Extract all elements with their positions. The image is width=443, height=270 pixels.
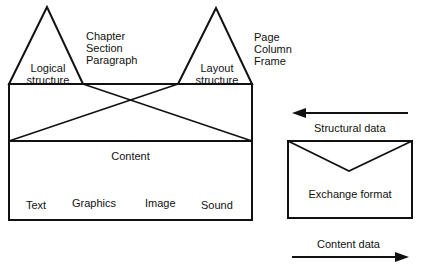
mapping-line-layout bbox=[9, 84, 178, 141]
mapping-box bbox=[9, 84, 252, 141]
envelope-body bbox=[288, 141, 412, 218]
layout-structure-label: Layout structure bbox=[189, 62, 245, 86]
logical-item: Section bbox=[86, 42, 137, 54]
content-type-graphics: Graphics bbox=[72, 197, 116, 209]
content-arrow-head bbox=[395, 252, 409, 262]
logical-items: Chapter Section Paragraph bbox=[86, 30, 137, 66]
content-type-sound: Sound bbox=[201, 199, 233, 211]
layout-item: Column bbox=[254, 43, 292, 55]
logical-item: Paragraph bbox=[86, 54, 137, 66]
content-type-text: Text bbox=[26, 199, 46, 211]
logical-item: Chapter bbox=[86, 30, 137, 42]
logical-structure-label: Logical structure bbox=[20, 62, 76, 86]
content-title: Content bbox=[9, 150, 252, 162]
diagram-canvas bbox=[0, 0, 443, 270]
exchange-format-label: Exchange format bbox=[288, 188, 412, 200]
content-data-label: Content data bbox=[317, 238, 380, 250]
layout-item: Page bbox=[254, 31, 292, 43]
envelope-flap bbox=[288, 141, 412, 171]
structural-arrow-head bbox=[292, 108, 306, 118]
layout-items: Page Column Frame bbox=[254, 31, 292, 67]
layout-item: Frame bbox=[254, 55, 292, 67]
mapping-line-logical bbox=[83, 84, 252, 141]
content-type-image: Image bbox=[145, 197, 176, 209]
structural-data-label: Structural data bbox=[314, 122, 386, 134]
